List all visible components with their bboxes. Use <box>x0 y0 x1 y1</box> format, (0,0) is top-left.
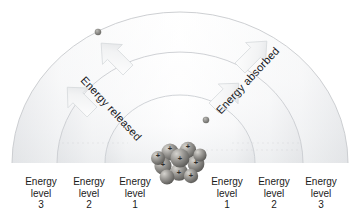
energy-level-3-left-value: 3 <box>14 199 68 211</box>
svg-text:+: + <box>177 168 182 177</box>
energy-level-1-right: Energy level 1 <box>200 176 254 211</box>
energy-level-1-right-line1: Energy <box>200 176 254 188</box>
energy-level-1-left-line2: level <box>108 188 162 200</box>
svg-text:+: + <box>194 158 199 167</box>
svg-text:+: + <box>168 144 173 153</box>
energy-level-3-right-line1: Energy <box>294 176 348 188</box>
energy-level-1-left: Energy level 1 <box>108 176 162 211</box>
svg-text:+: + <box>161 160 166 169</box>
energy-level-3-right: Energy level 3 <box>294 176 348 211</box>
energy-level-1-right-value: 1 <box>200 199 254 211</box>
electron-inner-right <box>203 117 209 123</box>
energy-level-2-right-line1: Energy <box>247 176 301 188</box>
energy-level-2-right: Energy level 2 <box>247 176 301 211</box>
energy-level-3-left-line1: Energy <box>14 176 68 188</box>
energy-level-2-right-line2: level <box>247 188 301 200</box>
energy-level-3-left: Energy level 3 <box>14 176 68 211</box>
energy-level-1-left-value: 1 <box>108 199 162 211</box>
energy-level-3-right-value: 3 <box>294 199 348 211</box>
energy-level-3-left-line2: level <box>14 188 68 200</box>
energy-level-2-right-value: 2 <box>247 199 301 211</box>
energy-level-3-right-line2: level <box>294 188 348 200</box>
energy-level-1-right-line2: level <box>200 188 254 200</box>
electron-outer-left <box>95 29 101 35</box>
energy-level-1-left-line1: Energy <box>108 176 162 188</box>
svg-text:+: + <box>178 154 183 163</box>
svg-text:+: + <box>156 151 161 160</box>
svg-text:+: + <box>186 142 191 151</box>
energy-level-diagram: + + + + + + + + Energy released Energy a… <box>0 0 360 217</box>
svg-text:+: + <box>189 171 194 180</box>
